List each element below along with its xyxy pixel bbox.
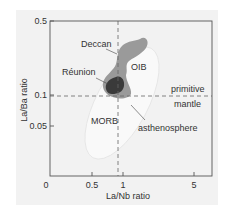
y-tick-label: 0.5 bbox=[34, 16, 47, 26]
chart: 0.5 0.1 0.05 0 0.5 1 5 La/Nb ratio La/Ba… bbox=[0, 0, 227, 211]
reunion-label: Réunion bbox=[62, 67, 96, 77]
x-tick-label: 0.5 bbox=[86, 180, 99, 190]
y-tick-label: 0.05 bbox=[29, 121, 47, 131]
oib-label: OIB bbox=[131, 62, 147, 72]
asthenosphere-label: asthenosphere bbox=[138, 123, 198, 133]
morb-label: MORB bbox=[91, 116, 118, 126]
y-tick-label: 0.1 bbox=[34, 90, 47, 100]
x-axis-label: La/Nb ratio bbox=[106, 191, 150, 201]
mantle-label: mantle bbox=[174, 99, 201, 109]
x-tick-label: 1 bbox=[120, 180, 125, 190]
primitive-label: primitive bbox=[171, 84, 205, 94]
x-tick-label: 0 bbox=[43, 180, 48, 190]
x-tick-label: 5 bbox=[191, 180, 196, 190]
y-axis-label: La/Ba ratio bbox=[19, 78, 29, 122]
deccan-label: Deccan bbox=[81, 39, 112, 49]
